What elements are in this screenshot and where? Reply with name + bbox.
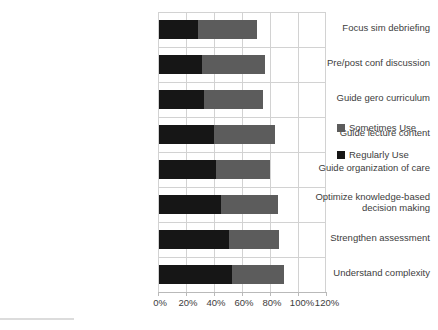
x-axis-tick-0 — [158, 292, 159, 296]
category-label: Guide gero curriculum — [282, 92, 430, 103]
bar-row: Strengthen assessment — [0, 222, 438, 257]
bar-segment-regularly-use — [159, 230, 229, 249]
x-tick-label: 120% — [315, 297, 339, 309]
stacked-bar — [159, 160, 270, 179]
legend-item-sometimes-use: Sometimes Use — [337, 122, 437, 133]
bar-row: Pre/post conf discussion — [0, 47, 438, 82]
x-tick-label: 80% — [262, 297, 281, 309]
bar-segment-sometimes-use — [202, 55, 265, 74]
x-tick-label: 60% — [234, 297, 253, 309]
category-label: Optimize knowledge-based decision making — [282, 191, 430, 213]
legend-label: Sometimes Use — [349, 122, 416, 133]
legend-label: Regularly Use — [349, 149, 409, 160]
x-tick-label: 40% — [206, 297, 225, 309]
x-axis-tick-120 — [326, 292, 327, 296]
bar-segment-sometimes-use — [198, 20, 257, 39]
x-axis-tick-40 — [214, 292, 215, 296]
stacked-bar-chart: Focus sim debriefing Pre/post conf discu… — [0, 0, 438, 330]
legend-item-regularly-use: Regularly Use — [337, 149, 437, 160]
x-tick-label: 20% — [178, 297, 197, 309]
bar-segment-regularly-use — [159, 90, 204, 109]
legend-swatch-sometimes-use-icon — [337, 124, 345, 132]
x-axis-tick-labels: 0% 20% 40% 60% 80% 100% 120% — [0, 297, 438, 311]
stacked-bar — [159, 55, 265, 74]
bar-segment-regularly-use — [159, 160, 216, 179]
stacked-bar — [159, 125, 275, 144]
scan-edge-artifact — [0, 318, 74, 320]
x-axis-tick-80 — [270, 292, 271, 296]
x-axis-tick-60 — [242, 292, 243, 296]
chart-legend: Sometimes Use Regularly Use — [337, 122, 437, 176]
bar-segment-sometimes-use — [232, 265, 284, 284]
stacked-bar — [159, 90, 263, 109]
x-axis-tick-100 — [298, 292, 299, 296]
category-label: Pre/post conf discussion — [282, 57, 430, 68]
stacked-bar — [159, 265, 284, 284]
category-label: Focus sim debriefing — [282, 22, 430, 33]
stacked-bar — [159, 195, 278, 214]
x-tick-label: 100% — [290, 297, 314, 309]
bar-segment-sometimes-use — [229, 230, 279, 249]
bar-segment-sometimes-use — [216, 160, 270, 179]
bar-segment-regularly-use — [159, 265, 232, 284]
x-tick-label: 0% — [153, 297, 167, 309]
bar-segment-regularly-use — [159, 195, 221, 214]
bar-segment-regularly-use — [159, 125, 214, 144]
bar-segment-sometimes-use — [214, 125, 275, 144]
legend-swatch-regularly-use-icon — [337, 151, 345, 159]
bar-row: Understand complexity — [0, 257, 438, 292]
stacked-bar — [159, 230, 279, 249]
bar-segment-regularly-use — [159, 55, 202, 74]
bar-segment-sometimes-use — [221, 195, 278, 214]
category-label: Understand complexity — [282, 267, 430, 278]
bar-row: Focus sim debriefing — [0, 12, 438, 47]
bar-row: Optimize knowledge-based decision making — [0, 187, 438, 222]
stacked-bar — [159, 20, 257, 39]
category-label: Strengthen assessment — [282, 232, 430, 243]
bar-segment-sometimes-use — [204, 90, 263, 109]
bar-segment-regularly-use — [159, 20, 198, 39]
x-axis-tick-20 — [186, 292, 187, 296]
bar-row: Guide gero curriculum — [0, 82, 438, 117]
